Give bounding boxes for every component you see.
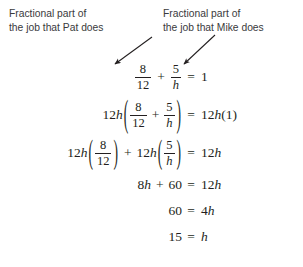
equation-4-rhs: 12h [196, 177, 303, 193]
coefficient-number: 12 [201, 107, 215, 123]
annotation-label-pat-line1: Fractional part of [9, 7, 103, 21]
coefficient-variable: h [116, 107, 123, 123]
equation-6-rhs: h [196, 229, 303, 245]
solution-variable: h [201, 229, 208, 245]
term-variable: h [144, 177, 151, 193]
equation-row-5: 60 = 4h [0, 198, 303, 224]
annotation-label-mike-line1: Fractional part of [163, 7, 264, 21]
plus-operator: + [157, 69, 165, 85]
value: 60 [169, 203, 183, 219]
denominator: h [164, 115, 174, 130]
equals-sign: = [186, 229, 196, 245]
equation-4-lhs: 8h + 60 [0, 177, 186, 193]
plus-operator: + [124, 145, 132, 161]
coefficient-variable: h [215, 107, 222, 123]
coefficient-variable: h [208, 203, 215, 219]
fraction-8-over-12: 8 12 [135, 63, 152, 91]
equals-sign: = [186, 177, 196, 193]
term-constant: 60 [169, 177, 183, 193]
equation-1-lhs: 8 12 + 5 h [0, 63, 186, 91]
coefficient-number: 12 [67, 145, 81, 161]
equation-row-6: 15 = h [0, 224, 303, 250]
denominator: 12 [95, 153, 112, 168]
numerator: 8 [98, 139, 108, 153]
denominator: 12 [135, 77, 152, 92]
coefficient-variable: h [81, 145, 88, 161]
plus-operator: + [156, 177, 164, 193]
value: 1 [201, 69, 208, 85]
coefficient-variable: h [215, 177, 222, 193]
fraction-5-over-h: 5 h [171, 63, 181, 91]
numerator: 5 [164, 101, 174, 115]
numerator: 5 [171, 63, 181, 77]
equation-stack: 8 12 + 5 h = 1 12h ( 8 12 + 5 [0, 58, 303, 250]
equation-5-lhs: 60 [0, 203, 186, 219]
numerator: 8 [133, 101, 143, 115]
equation-1-rhs: 1 [196, 69, 303, 85]
denominator: h [164, 153, 174, 168]
annotation-label-mike: Fractional part of the job that Mike doe… [163, 7, 264, 34]
coefficient-number: 12 [137, 145, 151, 161]
coefficient-number: 12 [201, 177, 215, 193]
equals-sign: = [186, 203, 196, 219]
equation-3-lhs: 12h ( 8 12 ) + 12h ( 5 h ) [0, 139, 186, 167]
denominator: 12 [130, 115, 147, 130]
equation-2-rhs: 12h(1) [196, 107, 303, 123]
value: 15 [169, 229, 183, 245]
equation-3-rhs: 12h [196, 145, 303, 161]
denominator: h [171, 77, 181, 92]
equals-sign: = [186, 69, 196, 85]
equation-row-2: 12h ( 8 12 + 5 h ) = 12h(1) [0, 96, 303, 134]
plus-operator: + [152, 107, 160, 123]
equation-row-3: 12h ( 8 12 ) + 12h ( 5 h ) = 12h [0, 134, 303, 172]
coefficient-number: 12 [201, 145, 215, 161]
fraction-8-over-12: 8 12 [95, 139, 112, 167]
coefficient-12h: 12h [102, 107, 122, 123]
equation-5-rhs: 4h [196, 203, 303, 219]
equals-sign: = [186, 107, 196, 123]
term-coefficient: 8 [137, 177, 144, 193]
equation-2-lhs: 12h ( 8 12 + 5 h ) [0, 101, 186, 129]
annotation-label-pat: Fractional part of the job that Pat does [9, 7, 103, 34]
numerator: 8 [138, 63, 148, 77]
value: (1) [221, 107, 237, 123]
fraction-8-over-12: 8 12 [130, 101, 147, 129]
coefficient-variable: h [150, 145, 157, 161]
annotation-label-mike-line2: the job that Mike does [163, 21, 264, 35]
equation-row-1: 8 12 + 5 h = 1 [0, 58, 303, 96]
equation-row-4: 8h + 60 = 12h [0, 172, 303, 198]
coefficient-number: 12 [102, 107, 116, 123]
fraction-5-over-h: 5 h [164, 101, 174, 129]
fraction-5-over-h: 5 h [164, 139, 174, 167]
annotation-label-pat-line2: the job that Pat does [9, 21, 103, 35]
coefficient-number: 4 [201, 203, 208, 219]
equals-sign: = [186, 145, 196, 161]
equation-6-lhs: 15 [0, 229, 186, 245]
numerator: 5 [164, 139, 174, 153]
coefficient-variable: h [215, 145, 222, 161]
